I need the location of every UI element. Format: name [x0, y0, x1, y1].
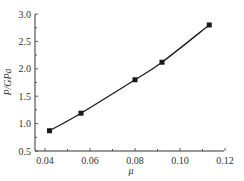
square-marker: [160, 60, 165, 65]
square-marker: [79, 111, 84, 116]
chart-canvas: 0.51.01.52.02.53.00.040.060.080.100.12 μ…: [0, 0, 244, 181]
y-tick-label: 3.0: [19, 9, 32, 20]
x-tick-label: 0.06: [81, 155, 99, 166]
x-tick-label: 0.04: [36, 155, 54, 166]
y-tick-label: 0.5: [19, 146, 32, 157]
data-series: [47, 22, 212, 133]
tick-labels: 0.51.01.52.02.53.00.040.060.080.100.12: [19, 9, 234, 167]
x-axis-label: μ: [127, 165, 133, 176]
y-axis-label: P/GPa: [2, 68, 13, 96]
y-tick-label: 1.0: [19, 118, 32, 129]
y-tick-label: 2.5: [19, 36, 32, 47]
square-marker: [207, 22, 212, 27]
series-line: [50, 25, 210, 131]
x-tick-label: 0.10: [171, 155, 189, 166]
x-tick-label: 0.12: [216, 155, 234, 166]
square-marker: [133, 77, 138, 82]
y-tick-label: 1.5: [19, 91, 32, 102]
y-tick-label: 2.0: [19, 63, 32, 74]
square-marker: [47, 128, 52, 133]
